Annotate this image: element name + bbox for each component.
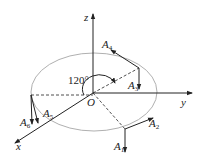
force-a4-label: A4: [101, 38, 113, 52]
origin-label: O: [87, 96, 95, 108]
force-a1-label: A1: [113, 140, 125, 154]
force-a5-label: A5: [42, 107, 54, 121]
angle-label: 120°: [68, 74, 89, 86]
force-a6-label: A6: [19, 116, 31, 130]
force-a2-label: A2: [148, 117, 160, 131]
force-a4-arrow: [111, 50, 139, 68]
z-axis-label: z: [83, 11, 89, 23]
diagram-canvas: z y x O 120° A4 A3 A2 A1 A5 A6: [0, 0, 201, 163]
x-axis-label: x: [15, 140, 21, 152]
y-axis-label: y: [180, 96, 186, 108]
dashed-radius-lower: [93, 93, 125, 129]
force-a3-label: A3: [127, 79, 139, 93]
